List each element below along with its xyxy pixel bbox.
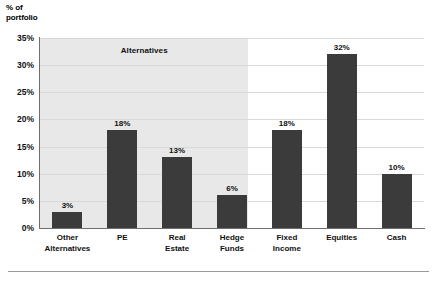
x-axis-category-label: Hedge Funds [205, 232, 260, 254]
x-axis-category-labels: Other AlternativesPEReal EstateHedge Fun… [40, 232, 424, 266]
y-axis-tick-label: 30% [0, 60, 34, 70]
bar-value-label: 18% [95, 119, 150, 128]
y-axis-tick-label: 10% [0, 169, 34, 179]
bar-slot: 13% [150, 38, 205, 228]
bar [107, 130, 137, 228]
bar-slot: 3% [40, 38, 95, 228]
bar-value-label: 13% [150, 146, 205, 155]
bar-slot: 10% [369, 38, 424, 228]
x-axis-category-label: Equities [314, 232, 369, 243]
bar-slot: 18% [259, 38, 314, 228]
bars-layer: 3%18%13%6%18%32%10% [40, 38, 424, 228]
x-axis-category-label: PE [95, 232, 150, 243]
bar-slot: 32% [314, 38, 369, 228]
bar-value-label: 18% [259, 119, 314, 128]
y-axis-title: % of portfolio [6, 3, 38, 23]
y-axis-tick-label: 35% [0, 33, 34, 43]
bar [162, 157, 192, 228]
bar-value-label: 3% [40, 201, 95, 210]
y-axis-tick-label: 20% [0, 114, 34, 124]
x-axis-line [39, 228, 425, 229]
bar-slot: 18% [95, 38, 150, 228]
bar-chart: % of portfolio Alternatives 3%18%13%6%18… [0, 0, 437, 281]
y-axis-tick-label: 15% [0, 142, 34, 152]
bar [327, 54, 357, 228]
y-axis-tick-label: 5% [0, 196, 34, 206]
bar [382, 174, 412, 228]
bar [217, 195, 247, 228]
y-axis-tick-label: 0% [0, 223, 34, 233]
y-axis-tick-label: 25% [0, 87, 34, 97]
bar-slot: 6% [205, 38, 260, 228]
x-axis-category-label: Other Alternatives [40, 232, 95, 254]
bar-value-label: 32% [314, 43, 369, 52]
footer-divider [8, 271, 429, 272]
x-axis-category-label: Cash [369, 232, 424, 243]
bar-value-label: 10% [369, 163, 424, 172]
bar [52, 212, 82, 228]
x-axis-category-label: Fixed Income [259, 232, 314, 254]
plot-area: Alternatives 3%18%13%6%18%32%10% [40, 38, 424, 228]
x-axis-category-label: Real Estate [150, 232, 205, 254]
bar-value-label: 6% [205, 184, 260, 193]
bar [272, 130, 302, 228]
